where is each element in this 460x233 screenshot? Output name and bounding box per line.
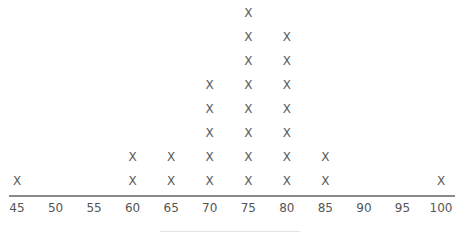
x-marker: X: [161, 150, 181, 164]
x-tick-label: 45: [2, 201, 32, 215]
x-tick-label: 85: [310, 201, 340, 215]
x-marker: X: [200, 126, 220, 140]
x-marker: X: [277, 30, 297, 44]
x-tick-label: 50: [41, 201, 71, 215]
x-marker: X: [123, 150, 143, 164]
x-marker: X: [277, 174, 297, 188]
x-marker: X: [277, 126, 297, 140]
x-marker: X: [277, 150, 297, 164]
x-axis-label-cropped: [160, 229, 300, 233]
x-marker: X: [238, 30, 258, 44]
x-axis-line: [9, 195, 455, 197]
x-tick-label: 90: [349, 201, 379, 215]
x-marker: X: [200, 150, 220, 164]
x-marker: X: [161, 174, 181, 188]
x-marker: X: [315, 174, 335, 188]
x-marker: X: [277, 78, 297, 92]
x-marker: X: [200, 78, 220, 92]
x-marker: X: [200, 102, 220, 116]
x-marker: X: [238, 54, 258, 68]
x-tick-label: 75: [233, 201, 263, 215]
dot-plot: XXXXXXXXXXXXXXXXXXXXXXXXXXXX 45505560657…: [0, 0, 460, 233]
x-marker: X: [200, 174, 220, 188]
x-tick-label: 65: [156, 201, 186, 215]
x-tick-label: 80: [272, 201, 302, 215]
x-marker: X: [238, 126, 258, 140]
x-marker: X: [238, 174, 258, 188]
x-marker: X: [7, 174, 27, 188]
x-marker: X: [315, 150, 335, 164]
x-marker: X: [431, 174, 451, 188]
x-tick-label: 100: [426, 201, 456, 215]
x-marker: X: [238, 102, 258, 116]
x-marker: X: [238, 78, 258, 92]
x-tick-label: 70: [195, 201, 225, 215]
x-marker: X: [277, 102, 297, 116]
x-marker: X: [238, 6, 258, 20]
x-marker: X: [123, 174, 143, 188]
x-marker: X: [277, 54, 297, 68]
x-tick-label: 55: [79, 201, 109, 215]
x-tick-label: 60: [118, 201, 148, 215]
x-marker: X: [238, 150, 258, 164]
x-tick-label: 95: [387, 201, 417, 215]
